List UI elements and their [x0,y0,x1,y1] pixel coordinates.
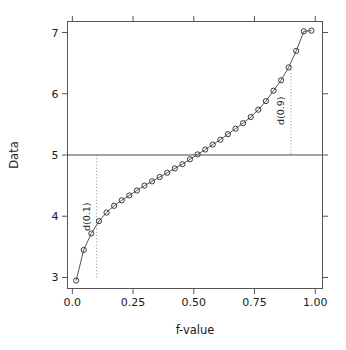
y-axis-title: Data [7,141,21,168]
data-polyline [76,31,311,281]
x-tick-label-3: 0.75 [242,296,267,309]
x-tick-label-1: 0.25 [121,296,146,309]
annotation-label-d-0-9: d(0.9) [275,96,286,125]
chart-figure: 0.00.250.500.751.0034567d(0.1)d(0.9)f-va… [0,0,346,350]
y-tick-label-1: 4 [52,210,59,223]
annotation-label-d-0-1: d(0.1) [81,202,92,231]
x-tick-label-0: 0.0 [64,296,82,309]
y-tick-label-3: 6 [52,88,59,101]
quantile-plot: 0.00.250.500.751.0034567d(0.1)d(0.9)f-va… [0,0,346,350]
y-tick-label-4: 7 [52,27,59,40]
plot-panel: 0.00.250.500.751.0034567d(0.1)d(0.9)f-va… [7,16,328,337]
y-tick-label-0: 3 [52,271,59,284]
x-axis-title: f-value [176,323,215,337]
y-tick-label-2: 5 [52,149,59,162]
x-tick-label-4: 1.00 [303,296,328,309]
x-tick-label-2: 0.50 [182,296,207,309]
